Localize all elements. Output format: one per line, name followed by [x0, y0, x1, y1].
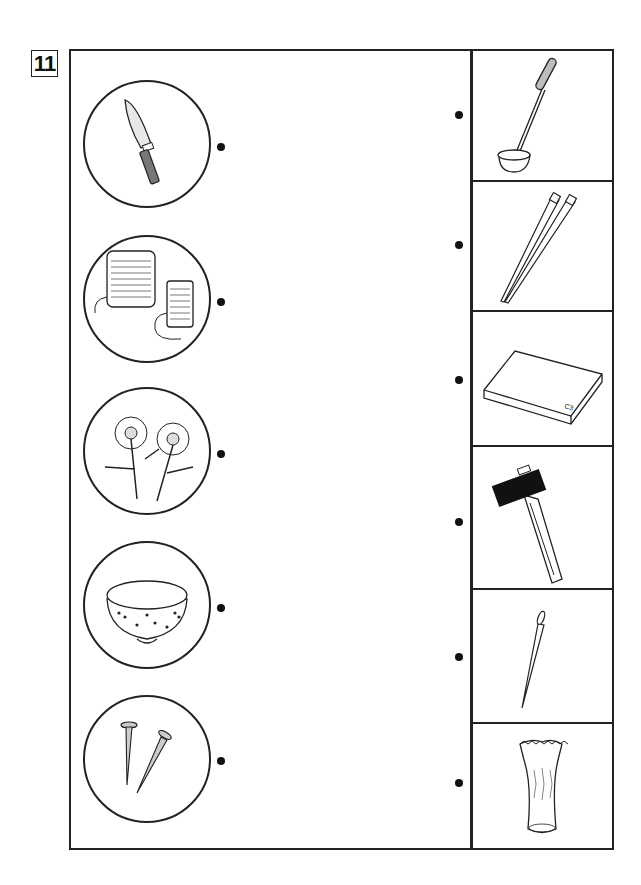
- right-cell-vase[interactable]: [472, 722, 614, 850]
- nails-icon: [85, 697, 209, 821]
- right-dot-5[interactable]: [455, 653, 463, 661]
- needle-icon: [472, 590, 614, 725]
- vase-icon: [472, 724, 614, 852]
- chopsticks-icon: [472, 182, 614, 313]
- question-number: 11: [31, 50, 58, 77]
- left-item-thread[interactable]: [83, 235, 211, 363]
- cutting-board-icon: C3: [472, 312, 614, 448]
- thread-spools-icon: [85, 237, 209, 361]
- right-dot-2[interactable]: [455, 241, 463, 249]
- left-dot-3[interactable]: [217, 450, 225, 458]
- right-cell-cutting-board[interactable]: C3: [472, 310, 614, 446]
- right-cell-chopsticks[interactable]: [472, 180, 614, 311]
- left-item-nails[interactable]: [83, 695, 211, 823]
- right-dot-4[interactable]: [455, 518, 463, 526]
- right-cell-ladle[interactable]: [472, 49, 614, 180]
- left-dot-1[interactable]: [217, 143, 225, 151]
- right-cell-needle[interactable]: [472, 588, 614, 723]
- right-dot-1[interactable]: [455, 111, 463, 119]
- right-cell-hammer[interactable]: [472, 445, 614, 589]
- left-dot-4[interactable]: [217, 604, 225, 612]
- hammer-icon: [472, 447, 614, 591]
- right-dot-3[interactable]: [455, 376, 463, 384]
- left-item-knife[interactable]: [83, 80, 211, 208]
- left-item-flowers[interactable]: [83, 387, 211, 515]
- left-dot-2[interactable]: [217, 298, 225, 306]
- ladle-icon: [472, 51, 614, 182]
- left-item-rice-bowl[interactable]: [83, 541, 211, 669]
- flowers-icon: [85, 389, 209, 513]
- knife-icon: [85, 82, 209, 206]
- right-dot-6[interactable]: [455, 779, 463, 787]
- rice-bowl-icon: [85, 543, 209, 667]
- left-dot-5[interactable]: [217, 757, 225, 765]
